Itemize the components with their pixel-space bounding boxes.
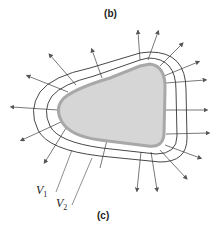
- panel-label-c: (c): [97, 210, 109, 221]
- label-v2: V2: [56, 196, 67, 212]
- field-diagram: [0, 0, 221, 231]
- label-v1: V1: [36, 183, 47, 199]
- conductor: [58, 64, 165, 146]
